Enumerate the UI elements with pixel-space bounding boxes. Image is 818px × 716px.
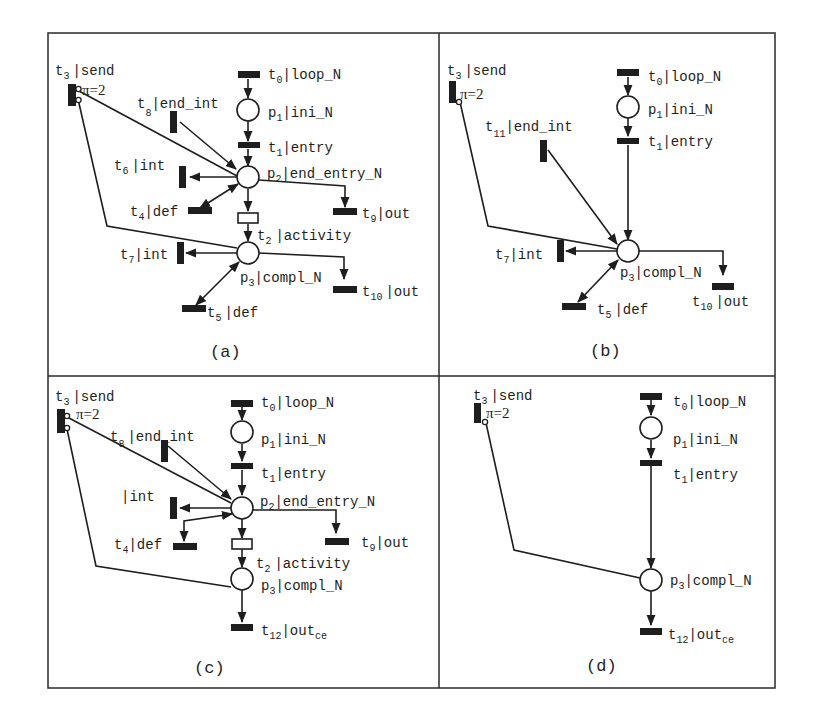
transition-t5 [562,303,586,310]
transition-t4 [188,207,212,214]
arc-t11-p3 [548,150,617,244]
label-pi: π=2 [486,405,510,421]
panel-caption: (a) [210,343,241,362]
label-t1: t1|entry [261,466,326,485]
inhibitor-marker [76,86,81,91]
panel-c: t3|send π=2 t0|loop_N p1|ini_N t8|end_in… [55,389,409,678]
label-t6: t6|int [114,158,165,177]
label-t4: t4|def [130,204,178,223]
panel-b: t3|send π=2 t0|loop_N p1|ini_N t11|end_i… [447,63,749,361]
transition-t0 [238,71,260,78]
arc-p3-t5 [578,260,618,302]
label-t7: t7|int [495,247,543,266]
label-t0: t0|loop_N [648,69,721,88]
label-t0: t0|loop_N [268,67,341,86]
label-int: |int [121,489,155,505]
label-t8: t8|end_int [137,96,219,119]
label-t10: t10|out [362,284,419,303]
inhibitor-marker [64,425,69,430]
arc-p2-t9 [259,180,345,207]
arc-p2-t9 [253,510,336,533]
panel-caption: (b) [590,342,621,361]
transition-t1 [617,138,639,144]
arc-p2-t4 [184,514,232,541]
label-t12: t12|outce [668,627,734,646]
place-p2 [237,166,259,188]
transition-t4 [173,543,197,550]
petri-net-figure: t3|send π=2 t0|loop_N p1|ini_N t8|end_in… [0,0,818,716]
label-t3: t3|send [447,63,506,82]
transition-t8 [170,111,177,133]
label-p1: p1|ini_N [268,105,333,124]
label-t4: t4|def [114,537,162,556]
label-p1: p1|ini_N [648,102,713,121]
transition-t11 [540,140,547,162]
arc-t8-p2 [180,122,236,169]
label-t1: t1|entry [268,140,333,159]
transition-t0 [617,69,639,76]
transition-t1 [231,463,253,469]
transition-t7 [557,240,564,262]
label-t10: t10|out [692,294,749,313]
label-p3: p3|compl_N [670,573,752,592]
transition-t3 [474,403,481,423]
inhibitor-marker [76,97,81,102]
label-t2: t2|activity [257,228,351,247]
label-t9: t9|out [362,206,410,225]
place-p1 [231,421,253,443]
transition-t10 [333,286,357,293]
panel-d: t3|send π=2 t0|loop_N p1|ini_N t1|entry … [473,388,752,676]
transition-t0 [640,393,662,400]
transition-t12 [640,628,662,635]
transition-t3 [449,81,456,103]
label-t1: t1|entry [648,134,713,153]
label-t0: t0|loop_N [673,394,746,413]
transition-t1 [238,142,260,148]
place-p3 [237,242,259,264]
transition-t5 [182,305,206,312]
transition-t2 [238,213,258,223]
transition-t2 [232,539,252,549]
label-t11: t11|end_int [485,119,573,140]
transition-t10 [712,283,734,290]
label-t9: t9|out [361,535,409,554]
transition-t6 [170,497,177,519]
place-p1 [617,96,639,118]
arc-p2-t4 [200,184,238,208]
label-t3: t3|send [55,63,114,82]
label-pi: π=2 [76,406,100,422]
transition-t7 [177,242,184,264]
transition-t3 [68,84,76,106]
label-t1: t1|entry [673,467,738,486]
label-p1: p1|ini_N [261,432,326,451]
place-p3 [640,569,662,591]
panel-caption: (d) [586,657,617,676]
label-p3: p3|compl_N [240,270,322,289]
place-p1 [640,417,662,439]
label-p1: p1|ini_N [673,432,738,451]
arc-t8-p2 [168,446,231,499]
arc-p3-t5 [196,262,239,305]
inhibitor-arc-t3-p3 [486,423,640,578]
transition-t1 [640,460,662,466]
inhibitor-marker [64,413,69,418]
transition-t12 [231,624,253,631]
transition-t6 [179,166,186,188]
label-t12: t12|outce [261,623,327,642]
label-t5: t5|def [207,305,258,324]
panel-a: t3|send π=2 t0|loop_N p1|ini_N t8|end_in… [55,63,419,362]
label-pi: π=2 [82,82,106,98]
panel-caption: (c) [194,659,225,678]
label-pi: π=2 [460,86,484,102]
transition-t9 [325,538,349,545]
place-p2 [231,497,253,519]
label-p3: p3|compl_N [261,578,343,597]
place-p3 [231,568,253,590]
figure-frame [48,33,775,688]
transition-t3 [57,409,65,433]
label-t2: t2|activity [256,556,350,575]
transition-t0 [231,400,253,407]
label-t8: t8|end_int [110,429,195,450]
label-t5: t5|def [597,302,648,321]
transition-t9 [333,208,357,215]
